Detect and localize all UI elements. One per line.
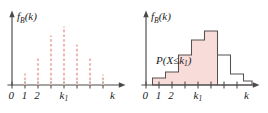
right-y-axis-arrowhead: [143, 11, 148, 18]
right-x-axis-arrowhead: [253, 82, 260, 87]
right-tick-label-2: 2: [168, 89, 174, 101]
left-tick-label-0: 0: [9, 89, 15, 101]
probability-annotation-prefix: P(X: [155, 54, 174, 67]
right-y-axis: [143, 11, 148, 86]
right-y-axis-label: fB(k): [151, 10, 171, 25]
left-stem-group: [25, 27, 103, 86]
right-y-axis-label-tail: (k): [159, 10, 172, 23]
right-tick-label-k1: k1: [194, 89, 203, 103]
right-x-axis-label: k: [244, 89, 250, 101]
left-y-axis-label-tail: (k): [25, 10, 38, 23]
right-tick-label-0: 0: [143, 89, 149, 101]
left-y-axis-arrowhead: [9, 11, 14, 18]
left-x-axis-label: k: [110, 89, 116, 101]
cdf-panel: fB(k) P(X≤k1) 0 1 2 k1 k: [134, 0, 268, 113]
left-tick-label-2: 2: [34, 89, 40, 101]
right-tick-label-k1-sub: 1: [198, 94, 202, 103]
left-x-axis-arrowhead: [119, 82, 126, 87]
probability-annotation-suffix: ): [187, 54, 192, 67]
left-tick-label-k1-sub: 1: [64, 94, 68, 103]
pmf-panel: fB(k) 0 1 2 k1 k: [0, 0, 134, 113]
left-y-axis-label: fB(k): [17, 10, 37, 25]
figure-root: fB(k) 0 1 2 k1 k: [0, 0, 268, 113]
right-tick-label-1: 1: [156, 89, 162, 101]
left-tick-label-k1: k1: [60, 89, 69, 103]
left-y-axis: [9, 11, 14, 86]
left-tick-label-1: 1: [22, 89, 28, 101]
